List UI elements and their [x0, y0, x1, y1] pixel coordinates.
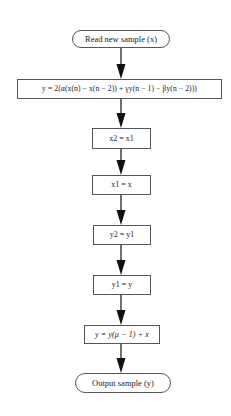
arrow-mix-to-end — [117, 344, 126, 373]
mix-output-formula: y = y(μ − 1) + x — [95, 331, 149, 339]
arrow-start-to-compute — [117, 48, 126, 79]
shift-x2-process: x2 = x1 — [92, 128, 151, 149]
shift-y1-process: y1 = y — [93, 275, 151, 295]
arrow-compute-to-x2 — [117, 99, 126, 128]
shift-y2-process: y2 = y1 — [93, 225, 151, 245]
shift-x1-process: x1 = x — [92, 175, 151, 195]
arrow-y2-to-y1 — [117, 245, 126, 275]
shift-y1-label: y1 = y — [112, 281, 133, 289]
end-label: Output sample (y) — [92, 379, 154, 388]
arrow-x2-to-x1 — [117, 149, 126, 175]
arrow-x1-to-y2 — [117, 195, 126, 225]
end-terminator: Output sample (y) — [75, 373, 171, 393]
start-terminator: Read new sample (x) — [72, 30, 170, 48]
flow-arrows — [0, 0, 231, 416]
arrow-y1-to-mix — [117, 295, 126, 325]
start-label: Read new sample (x) — [85, 35, 157, 44]
shift-y2-label: y2 = y1 — [110, 231, 135, 239]
compute-y-formula: y = 2(α(x(n) − x(n − 2)) + γy(n − 1) − β… — [42, 85, 197, 93]
mix-output-process: y = y(μ − 1) + x — [84, 325, 160, 344]
shift-x1-label: x1 = x — [111, 181, 132, 189]
compute-y-process: y = 2(α(x(n) − x(n − 2)) + γy(n − 1) − β… — [17, 79, 222, 99]
shift-x2-label: x2 = x1 — [109, 135, 134, 143]
